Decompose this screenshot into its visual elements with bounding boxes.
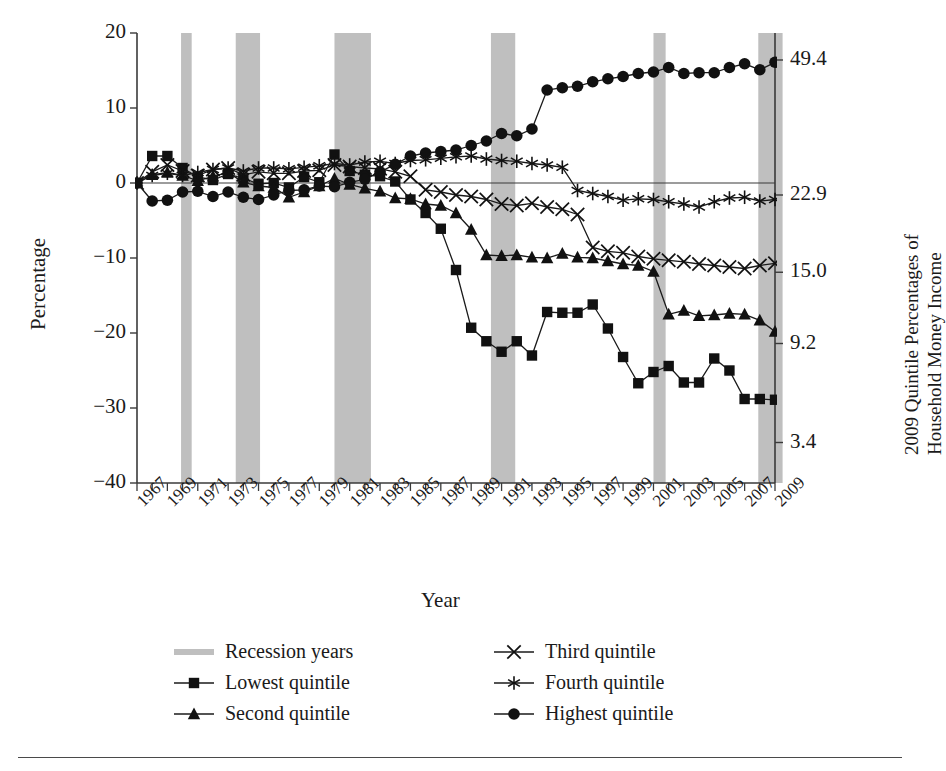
marker-circle [708, 67, 720, 79]
marker-triangle [389, 192, 401, 204]
marker-circle [405, 150, 417, 162]
marker-circle [435, 146, 447, 158]
marker-circle [465, 140, 477, 152]
marker-circle [162, 194, 174, 206]
legend-label: Recession years [225, 640, 353, 663]
y-axis-tick-label: 20 [52, 19, 126, 44]
legend-marker-circle-icon [492, 703, 536, 725]
marker-square [512, 336, 522, 346]
marker-square [189, 677, 199, 687]
marker-circle [359, 173, 371, 185]
legend-item[interactable]: Second quintile [172, 702, 350, 725]
legend-label: Second quintile [225, 702, 350, 725]
right-axis-title-line: 2009 Quintile Percentages of [900, 234, 923, 455]
legend-item[interactable]: Lowest quintile [172, 671, 350, 694]
marker-circle [268, 189, 280, 201]
marker-triangle [723, 307, 735, 319]
marker-circle [678, 68, 690, 80]
series-highest-quintile [131, 56, 781, 206]
marker-circle [344, 176, 356, 188]
y-axis-tick-label: −10 [52, 244, 126, 269]
marker-square [466, 323, 476, 333]
legend-item[interactable]: Recession years [172, 640, 353, 663]
marker-circle [648, 66, 660, 78]
legend-item[interactable]: Third quintile [492, 640, 656, 663]
marker-circle [177, 186, 189, 198]
marker-circle [693, 67, 705, 79]
marker-square [603, 323, 613, 333]
marker-circle [511, 130, 523, 142]
right-axis-title: 2009 Quintile Percentages ofHousehold Mo… [900, 234, 946, 455]
marker-circle [541, 84, 553, 96]
marker-circle [222, 186, 234, 198]
marker-circle [374, 166, 386, 178]
y-axis-title: Percentage [26, 238, 51, 330]
y-axis-tick-label: 10 [52, 94, 126, 119]
marker-circle [420, 147, 432, 159]
marker-square [618, 352, 628, 362]
marker-triangle [556, 247, 568, 259]
marker-circle [389, 158, 401, 170]
marker-square [724, 365, 734, 375]
marker-circle [496, 128, 508, 140]
marker-square [709, 353, 719, 363]
marker-square [557, 308, 567, 318]
marker-square [527, 350, 537, 360]
right-axis-tick-label: 22.9 [790, 181, 827, 206]
x-axis-title: Year [421, 588, 460, 613]
marker-circle [754, 64, 766, 76]
marker-circle [557, 82, 569, 94]
recession-band [181, 33, 192, 483]
marker-square [633, 378, 643, 388]
marker-circle [146, 195, 158, 207]
marker-circle [617, 71, 629, 83]
marker-circle [253, 194, 265, 206]
right-axis-title-line: Household Money Income [923, 234, 946, 455]
series-line [137, 173, 775, 332]
marker-circle [481, 135, 493, 147]
y-axis-tick-label: −20 [52, 319, 126, 344]
legend-label: Fourth quintile [545, 671, 664, 694]
marker-square [436, 224, 446, 234]
marker-triangle [480, 249, 492, 261]
marker-square [481, 336, 491, 346]
legend-label: Third quintile [545, 640, 656, 663]
marker-circle [313, 180, 325, 192]
marker-square [648, 367, 658, 377]
marker-circle [572, 80, 584, 92]
legend-marker-x-icon [492, 641, 536, 663]
recession-swatch [174, 649, 214, 655]
recession-band [334, 33, 370, 483]
marker-circle [724, 62, 736, 74]
recession-band [236, 33, 260, 483]
marker-square [663, 361, 673, 371]
marker-square [147, 151, 157, 161]
marker-triangle [678, 304, 690, 316]
y-axis-tick-label: −40 [52, 469, 126, 494]
bottom-rule [18, 757, 902, 758]
marker-circle [602, 73, 614, 85]
marker-square [542, 307, 552, 317]
marker-circle [207, 191, 219, 203]
legend-marker-band-icon [172, 641, 216, 663]
marker-circle [329, 181, 341, 193]
series-line [137, 62, 775, 201]
marker-circle [283, 185, 295, 197]
right-axis-tick-label: 3.4 [790, 429, 816, 454]
legend-item[interactable]: Highest quintile [492, 702, 673, 725]
right-axis-tick-label: 15.0 [790, 258, 827, 283]
legend-marker-triangle-icon [172, 703, 216, 725]
marker-circle [526, 123, 538, 135]
marker-circle [238, 191, 250, 203]
legend-item[interactable]: Fourth quintile [492, 671, 664, 694]
right-axis-tick-label: 9.2 [790, 330, 816, 355]
marker-square [588, 299, 598, 309]
y-axis-tick-label: 0 [52, 169, 126, 194]
marker-circle [632, 68, 644, 80]
marker-square [496, 347, 506, 357]
marker-square [162, 151, 172, 161]
right-axis-tick-label: 49.4 [790, 46, 827, 71]
marker-square [755, 394, 765, 404]
